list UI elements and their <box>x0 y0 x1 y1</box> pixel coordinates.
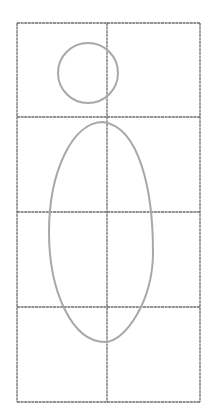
head-circle <box>58 43 118 103</box>
sketch-shapes <box>49 43 153 342</box>
sketch-canvas <box>0 0 209 420</box>
body-oval <box>49 122 153 342</box>
construction-grid <box>17 23 200 402</box>
